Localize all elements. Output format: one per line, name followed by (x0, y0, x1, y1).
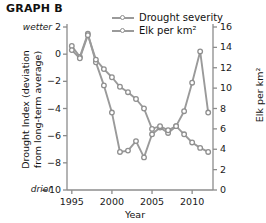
data-point (174, 124, 179, 129)
chart-series (70, 31, 211, 159)
data-point (94, 57, 99, 62)
data-point (78, 56, 83, 61)
data-point (190, 140, 195, 145)
chart-figure: GRAPH B Drought severity Elk per km² Dro… (0, 0, 266, 223)
data-point (134, 139, 139, 144)
data-point (150, 132, 155, 137)
data-point (142, 106, 147, 111)
data-point (126, 148, 131, 153)
data-point (182, 109, 187, 114)
data-point (206, 150, 211, 155)
data-point (190, 80, 195, 85)
data-point (158, 124, 163, 129)
data-point (102, 67, 107, 72)
data-point (86, 33, 91, 38)
data-point (126, 90, 131, 95)
data-point (166, 128, 171, 133)
data-point (110, 110, 115, 115)
data-point (150, 127, 155, 132)
chart-plot-area (0, 0, 266, 223)
data-point (102, 83, 107, 88)
data-point (70, 48, 75, 53)
data-point (182, 132, 187, 137)
data-point (134, 97, 139, 102)
data-point (118, 150, 123, 155)
data-point (142, 155, 147, 160)
data-point (110, 75, 115, 80)
data-point (198, 146, 203, 151)
data-point (118, 84, 123, 89)
data-point (206, 110, 211, 115)
chart-axes (63, 24, 217, 194)
data-point (198, 49, 203, 54)
